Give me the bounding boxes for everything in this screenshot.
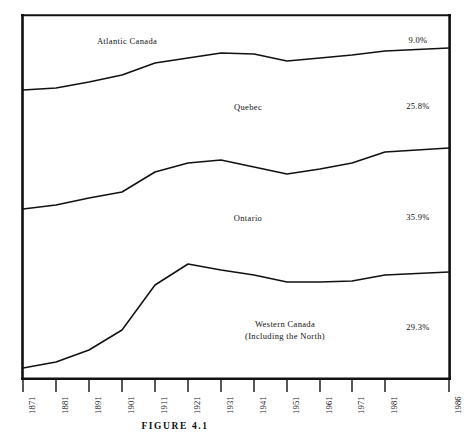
figure-caption: FIGURE 4.1 (0, 421, 350, 431)
x-tick-label-1921: 1921 (192, 396, 202, 414)
x-tick-label-1901: 1901 (126, 396, 136, 414)
band-value-atlantic-canada: 9.0% (390, 35, 446, 45)
band-label-western-canada: Western Canada (Including the North) (225, 318, 345, 342)
x-tick-label-1941: 1941 (258, 396, 268, 414)
band-label-western-canada-line2: (Including the North) (225, 330, 345, 342)
band-label-western-canada-line1: Western Canada (225, 318, 345, 330)
band-label-quebec: Quebec (205, 101, 291, 113)
x-tick-label-1871: 1871 (27, 396, 37, 414)
x-tick-label-1986: 1986 (453, 396, 463, 414)
x-tick-label-1911: 1911 (159, 397, 169, 415)
figure-container: Atlantic Canada 9.0% Quebec 25.8% Ontari… (0, 0, 472, 440)
x-tick-label-1931: 1931 (225, 396, 235, 414)
band-value-quebec: 25.8% (390, 101, 446, 111)
x-tick-label-1881: 1881 (60, 396, 70, 414)
band-value-ontario: 35.9% (390, 212, 446, 222)
band-value-western-canada: 29.3% (390, 322, 446, 332)
x-tick-label-1971: 1971 (356, 396, 366, 414)
x-tick-label-1961: 1961 (324, 396, 334, 414)
band-label-atlantic-canada: Atlantic Canada (72, 35, 182, 47)
band-label-ontario: Ontario (205, 212, 291, 224)
x-tick-label-1951: 1951 (291, 396, 301, 414)
x-axis-ticks (23, 380, 449, 392)
x-tick-label-1891: 1891 (93, 396, 103, 414)
x-tick-label-1981: 1981 (389, 396, 399, 414)
